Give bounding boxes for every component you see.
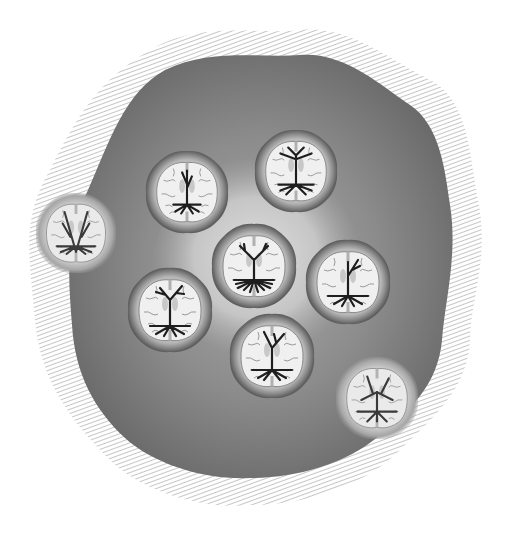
brain-slice-6: [128, 268, 212, 352]
brain-slice-1: [146, 151, 228, 233]
brain-slice-2: [255, 130, 337, 212]
brain-blob-illustration: [0, 0, 513, 537]
brain-slice-8: [336, 357, 418, 439]
brain-slice-3: [36, 193, 116, 273]
brain-slice-4: [212, 224, 296, 308]
brain-slice-5: [306, 240, 390, 324]
brain-slice-7: [230, 314, 314, 398]
